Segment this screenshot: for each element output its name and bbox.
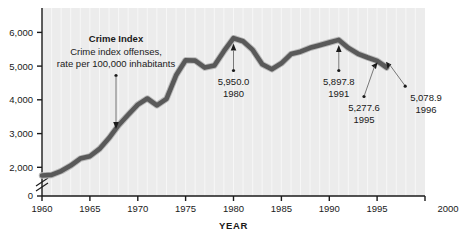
annotation-1995-value: 5,277.6 — [348, 102, 380, 113]
y-tick-label-5000: 5,000 — [9, 61, 33, 72]
annotation-1980-value: 5,950.0 — [218, 76, 250, 87]
crime-index-chart: 0 2,000 3,000 4,000 5,000 6,000 1960 196… — [0, 0, 466, 235]
x-tick-label-1970: 1970 — [127, 203, 148, 214]
annotation-1996-year: 1996 — [415, 104, 436, 115]
y-tick-label-4000: 4,000 — [9, 94, 33, 105]
annotation-1996-value: 5,078.9 — [410, 92, 442, 103]
x-tick-label-1995: 1995 — [367, 203, 388, 214]
annotation-1995-year: 1995 — [353, 114, 374, 125]
annotation-1991-value: 5,897.8 — [323, 76, 355, 87]
y-tick-label-6000: 6,000 — [9, 27, 33, 38]
x-tick-label-1980: 1980 — [223, 203, 244, 214]
y-tick-label-2000: 2,000 — [9, 162, 33, 173]
x-tick-label-2000: 2000 — [437, 203, 458, 214]
y-tick-label-3000: 3,000 — [9, 128, 33, 139]
chart-title: Crime Index — [89, 33, 144, 44]
x-tick-label-1990: 1990 — [319, 203, 340, 214]
x-tick-label-1960: 1960 — [31, 203, 52, 214]
annotation-1991-year: 1991 — [328, 88, 349, 99]
x-tick-label-1975: 1975 — [175, 203, 196, 214]
x-axis-title: YEAR — [219, 220, 248, 231]
chart-subtitle-line-2: rate per 100,000 inhabitants — [57, 58, 176, 69]
annotation-1980-year: 1980 — [223, 88, 244, 99]
x-tick-label-1965: 1965 — [79, 203, 100, 214]
x-tick-label-1985: 1985 — [271, 203, 292, 214]
y-tick-label-0: 0 — [28, 190, 33, 201]
chart-subtitle-line-1: Crime index offenses, — [70, 46, 162, 57]
